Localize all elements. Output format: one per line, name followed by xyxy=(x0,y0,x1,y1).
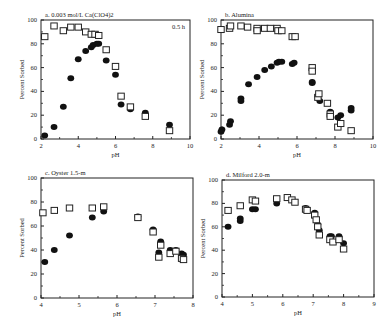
data-point xyxy=(173,248,179,254)
data-point xyxy=(166,128,172,134)
data-point xyxy=(309,79,316,85)
data-point xyxy=(238,96,245,102)
data-point xyxy=(89,205,95,211)
data-point xyxy=(51,124,58,130)
data-point xyxy=(237,216,244,222)
data-point xyxy=(238,23,244,29)
data-point xyxy=(340,246,346,252)
x-tick-label: 4 xyxy=(220,300,224,307)
data-point xyxy=(101,204,107,210)
y-tick-label: 20 xyxy=(212,270,219,277)
data-point xyxy=(252,198,258,204)
x-tick-label: 7 xyxy=(312,300,316,307)
data-point xyxy=(67,75,74,81)
series-filled-circle xyxy=(41,41,173,139)
data-point xyxy=(336,237,342,243)
x-tick-label: 4 xyxy=(77,142,81,149)
x-tick-label: 4 xyxy=(39,301,43,308)
x-tick-label: 8 xyxy=(191,301,194,308)
y-tick-label: 60 xyxy=(31,64,38,71)
data-point xyxy=(316,91,322,97)
x-axis-label: pH xyxy=(112,151,120,158)
data-point xyxy=(118,93,124,99)
plot-frame xyxy=(222,180,374,297)
data-point xyxy=(227,23,233,29)
y-tick-label: 80 xyxy=(31,198,38,205)
x-tick-label: 5 xyxy=(77,301,80,308)
y-tick-label: 60 xyxy=(31,222,38,229)
x-tick-label: 9 xyxy=(372,300,375,307)
x-axis-label: pH xyxy=(294,309,302,316)
data-point xyxy=(41,132,48,138)
y-tick-label: 40 xyxy=(211,87,218,94)
x-tick-label: 10 xyxy=(370,142,377,149)
x-axis-label: pH xyxy=(113,310,121,317)
data-point xyxy=(348,128,354,134)
x-tick-label: 6 xyxy=(281,300,285,307)
plot-frame xyxy=(41,178,193,298)
data-point xyxy=(227,118,234,124)
data-point xyxy=(95,41,102,47)
data-point xyxy=(330,239,336,245)
y-axis-label: Percent Sorbed xyxy=(198,59,205,99)
y-tick-label: 100 xyxy=(27,174,37,181)
y-tick-label: 80 xyxy=(211,40,218,47)
data-point xyxy=(75,24,81,30)
data-point xyxy=(254,28,260,34)
plot-frame xyxy=(41,20,190,139)
y-tick-label: 20 xyxy=(31,270,38,277)
y-tick-label: 0 xyxy=(214,135,217,142)
data-point xyxy=(278,59,285,65)
data-point xyxy=(254,74,261,80)
data-point xyxy=(42,34,48,40)
series-filled-circle xyxy=(41,209,187,265)
x-tick-label: 2 xyxy=(39,142,42,149)
y-tick-label: 80 xyxy=(31,40,38,47)
y-tick-label: 40 xyxy=(31,87,38,94)
data-point xyxy=(225,207,231,213)
data-point xyxy=(315,224,321,230)
data-point xyxy=(127,104,133,110)
y-tick-label: 20 xyxy=(31,111,38,118)
y-tick-label: 100 xyxy=(27,16,37,23)
y-tick-label: 0 xyxy=(34,135,37,142)
data-point xyxy=(112,72,119,78)
y-tick-label: 60 xyxy=(212,223,219,230)
data-point xyxy=(324,100,330,106)
data-point xyxy=(267,25,273,31)
panel-c: 45678020406080100c. Oyster 1.5-mpHPercen… xyxy=(18,169,195,317)
y-tick-label: 40 xyxy=(212,246,219,253)
data-point xyxy=(337,112,344,118)
data-point xyxy=(135,215,141,221)
figure: 246810020406080100a. 0.003 mol/L Ca(ClO4… xyxy=(0,0,387,330)
x-tick-label: 10 xyxy=(187,142,194,149)
data-point xyxy=(261,67,268,73)
data-point xyxy=(150,229,156,235)
y-tick-label: 40 xyxy=(31,246,38,253)
panel-d: 456789020406080100d. Milford 2.0-mpHPerc… xyxy=(199,171,376,316)
data-point xyxy=(60,28,66,34)
data-point xyxy=(338,121,344,127)
data-point xyxy=(51,207,57,213)
data-point xyxy=(51,23,57,29)
x-tick-label: 6 xyxy=(295,142,299,149)
panel-a: 246810020406080100a. 0.003 mol/L Ca(ClO4… xyxy=(18,11,193,158)
data-point xyxy=(316,232,322,238)
data-point xyxy=(96,32,102,38)
data-point xyxy=(237,203,243,209)
data-point xyxy=(40,210,46,216)
y-tick-label: 100 xyxy=(208,176,218,183)
data-point xyxy=(103,47,109,53)
x-tick-label: 5 xyxy=(251,300,254,307)
data-point xyxy=(166,122,173,128)
x-tick-label: 4 xyxy=(257,142,261,149)
data-point xyxy=(82,48,89,54)
x-tick-label: 6 xyxy=(114,142,118,149)
data-point xyxy=(327,113,333,119)
data-point xyxy=(118,101,125,107)
data-point xyxy=(180,257,186,263)
data-point xyxy=(75,56,82,62)
data-point xyxy=(66,233,73,239)
series-filled-circle xyxy=(218,59,355,135)
data-point xyxy=(292,34,298,40)
